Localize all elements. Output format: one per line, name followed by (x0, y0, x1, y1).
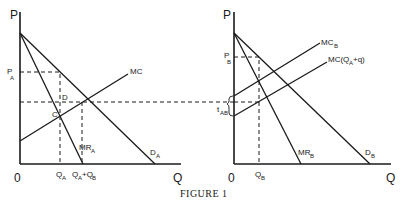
mr-a-sub: A (91, 148, 95, 154)
qab-sub-b: B (92, 175, 96, 181)
mr-b-line (234, 33, 301, 164)
pb-sub: B (227, 59, 231, 65)
point-c-label: C (52, 110, 58, 119)
mc-b-line (234, 43, 320, 96)
figure-caption: FIGURE 1 (180, 188, 228, 199)
mr-b-label: MR (298, 148, 311, 157)
right-p-axis-label: P (223, 8, 231, 22)
mc-qa-label-pre: MC(Q (328, 55, 349, 64)
mr-a-label: MR (79, 143, 92, 152)
mc-line (20, 74, 128, 141)
demand-a-sub: A (156, 153, 160, 159)
mr-a-line (20, 33, 83, 164)
right-panel: P Q 0 P B t AB MC B MC(Q A +q) MR B D B … (217, 8, 395, 185)
point-d-label: D (62, 93, 68, 102)
figure-diagram: P Q 0 P A D C MC MR A D A Q A Q A +Q B P… (0, 0, 402, 200)
qb-sub: B (261, 175, 265, 181)
right-origin-label: 0 (228, 171, 235, 185)
qa-sub: A (62, 175, 66, 181)
left-panel: P Q 0 P A D C MC MR A D A Q A Q A +Q B (7, 8, 236, 185)
mc-qa-label-post: +q) (353, 55, 365, 64)
right-q-axis-label: Q (386, 171, 395, 185)
pb-qb-dashed-guides (234, 57, 259, 164)
mr-b-sub: B (310, 153, 314, 159)
mc-b-sub: B (334, 43, 338, 49)
pa-sub: A (10, 75, 14, 81)
left-p-axis-label: P (10, 8, 18, 22)
mc-label: MC (130, 67, 143, 76)
left-origin-label: 0 (14, 171, 21, 185)
mc-qa-plus-q-line (234, 62, 327, 116)
tax-sub: AB (220, 110, 228, 116)
demand-b-line (234, 33, 370, 164)
demand-b-sub: B (371, 153, 375, 159)
mc-b-label: MC (321, 38, 334, 47)
left-q-axis-label: Q (173, 171, 182, 185)
